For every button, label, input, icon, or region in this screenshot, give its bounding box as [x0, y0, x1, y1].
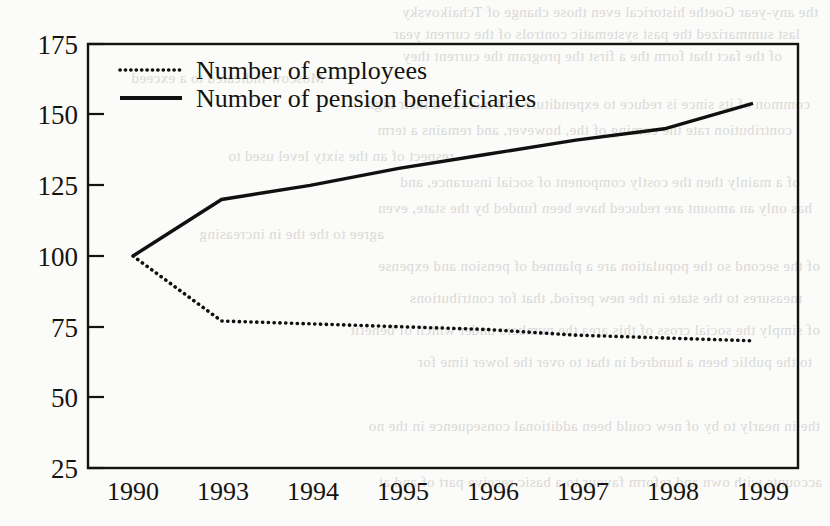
- y-tick-label: 25: [51, 454, 78, 484]
- legend-label-employees: Number of employees: [196, 56, 427, 85]
- x-tick-label: 1995: [377, 477, 429, 506]
- x-tick-label: 1994: [287, 477, 339, 506]
- chart-figure: 175 150 125 100 75 50 25 1990 1993 1994 …: [0, 0, 830, 526]
- x-tick-label: 1993: [197, 477, 249, 506]
- y-axis-labels: 175 150 125 100 75 50 25: [38, 30, 79, 484]
- x-tick-label: 1990: [107, 477, 159, 506]
- x-axis-labels: 1990 1993 1994 1995 1996 1997 1998 1999: [107, 477, 789, 506]
- x-tick-label: 1996: [467, 477, 519, 506]
- chart-legend: Number of employees Number of pension be…: [120, 56, 536, 113]
- x-tick-label: 1999: [737, 477, 789, 506]
- y-tick-label: 100: [38, 242, 79, 272]
- y-tick-label: 175: [38, 30, 79, 60]
- line-chart: 175 150 125 100 75 50 25 1990 1993 1994 …: [0, 0, 830, 526]
- series-line-employees: [133, 256, 753, 341]
- y-tick-label: 50: [51, 383, 78, 413]
- legend-label-pension-beneficiaries: Number of pension beneficiaries: [196, 84, 536, 113]
- x-tick-label: 1998: [647, 477, 699, 506]
- y-tick-label: 125: [38, 171, 79, 201]
- y-tick-label: 75: [51, 313, 78, 343]
- x-tick-label: 1997: [557, 477, 609, 506]
- series-line-pension-beneficiaries: [133, 103, 753, 256]
- y-axis-ticks: [88, 44, 104, 468]
- y-tick-label: 150: [38, 100, 79, 130]
